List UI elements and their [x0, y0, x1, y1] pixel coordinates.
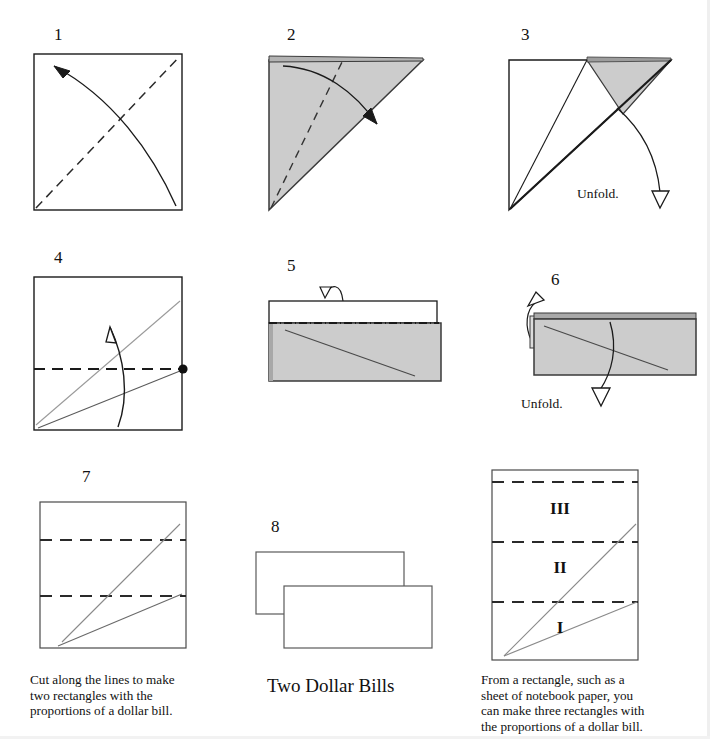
figure-step-8 — [252, 548, 442, 653]
caption-center: Two Dollar Bills — [267, 676, 394, 695]
scan-artifact-top — [205, 0, 505, 5]
step-number-5: 5 — [287, 257, 296, 274]
step-number-8: 8 — [271, 518, 280, 535]
step-number-7: 7 — [82, 468, 91, 485]
reference-dot — [178, 364, 187, 373]
unfold-arrowhead-down — [592, 388, 610, 406]
diagram-page: 1 2 3 — [0, 0, 710, 739]
region-label-ii: II — [545, 559, 575, 576]
unfold-label-step-6: Unfold. — [521, 397, 563, 411]
unfold-label-step-3: Unfold. — [577, 187, 619, 201]
bill-rect-front — [284, 586, 432, 648]
figure-step-1 — [32, 52, 187, 214]
fold-arrowhead-step-5 — [320, 287, 331, 298]
caption-left: Cut along the lines to make two rectangl… — [30, 672, 230, 719]
unfold-arrowhead — [652, 191, 669, 208]
figure-step-4 — [32, 275, 197, 440]
figure-step-5 — [265, 277, 450, 387]
step-number-3: 3 — [521, 26, 530, 43]
unfold-arrowhead-up — [528, 292, 544, 306]
caption-right: From a rectangle, such as a sheet of not… — [481, 672, 706, 734]
figure-step-6 — [500, 276, 700, 416]
region-label-iii: III — [545, 500, 575, 517]
figure-step-2 — [265, 52, 430, 214]
region-label-i: I — [545, 619, 575, 636]
step-number-2: 2 — [287, 26, 296, 43]
step-number-1: 1 — [54, 26, 63, 43]
figure-step-7 — [38, 500, 198, 652]
step-number-4: 4 — [54, 249, 63, 266]
